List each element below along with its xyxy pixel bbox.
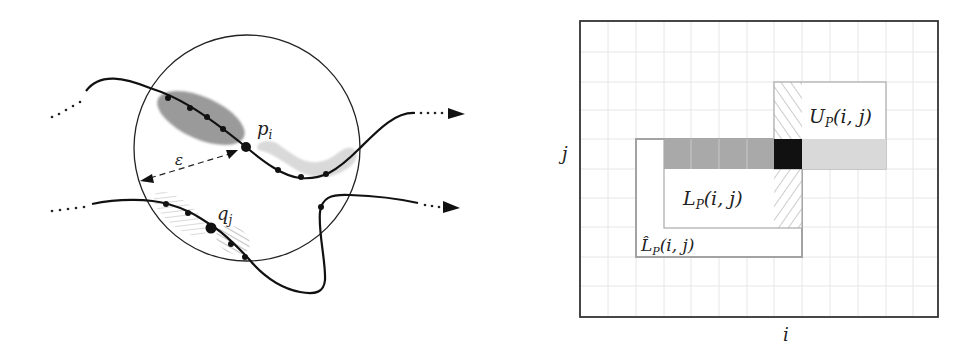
label-q-j: qj	[217, 203, 233, 227]
point-q-j	[206, 223, 217, 234]
arrow-head-q	[443, 201, 460, 213]
axis-label-i: i	[783, 324, 789, 345]
hatched-region-right	[211, 220, 255, 261]
point-p-i	[241, 142, 251, 152]
arrow-head-p	[448, 108, 465, 119]
epsilon-radius-arrow	[140, 150, 238, 183]
current-cell	[774, 139, 802, 169]
label-l-p: LP(i, j)	[682, 187, 743, 212]
dark-neighborhood-region	[150, 80, 253, 157]
axis-label-j: j	[558, 143, 568, 164]
trajectory-diagram: pi qj ε	[0, 0, 500, 356]
l-hatched-column	[774, 169, 802, 228]
light-row-bar	[802, 139, 886, 169]
matrix-svg: UP(i, j) LP(i, j) L̂P(i, j) j i	[530, 0, 978, 356]
label-epsilon: ε	[175, 151, 183, 169]
label-lhat-p: L̂P(i, j)	[640, 235, 694, 258]
light-neighborhood-region	[257, 141, 357, 177]
u-hatched-column	[774, 82, 802, 139]
hatched-region-left	[147, 184, 213, 244]
trajectory-svg: pi qj ε	[0, 0, 500, 356]
label-u-p: UP(i, j)	[809, 105, 872, 130]
label-p-i: pi	[257, 118, 273, 142]
trajectory-q	[51, 195, 460, 293]
matrix-diagram: UP(i, j) LP(i, j) L̂P(i, j) j i	[530, 0, 978, 356]
